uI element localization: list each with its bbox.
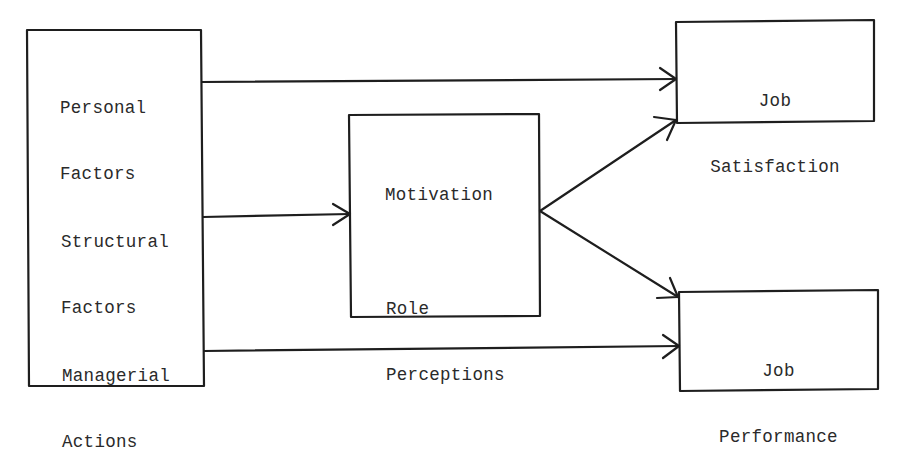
label-role-perceptions: Role Perceptions: [386, 254, 505, 408]
personal-factors-line2: Factors: [60, 163, 146, 185]
managerial-actions-line1: Managerial: [62, 365, 170, 387]
job-performance-line2: Performance: [679, 426, 878, 448]
arrow-mediator-to-satisfaction: [540, 117, 676, 211]
label-job-performance: Job Performance: [679, 316, 878, 451]
personal-factors-line1: Personal: [60, 97, 146, 119]
structural-factors-line2: Factors: [61, 297, 169, 319]
label-job-satisfaction: Job Satisfaction: [676, 46, 874, 200]
label-personal-factors: Personal Factors: [60, 53, 146, 207]
label-structural-factors: Structural Factors: [61, 187, 169, 341]
motivation-text: Motivation: [385, 184, 493, 206]
label-motivation: Motivation: [385, 140, 493, 228]
structural-factors-line1: Structural: [61, 231, 169, 253]
perceptions-text: Perceptions: [386, 364, 505, 386]
label-managerial-actions: Managerial Actions: [62, 321, 170, 451]
arrow-mediator-to-performance: [540, 211, 678, 298]
role-text: Role: [386, 298, 505, 320]
job-satisfaction-line2: Satisfaction: [676, 156, 874, 178]
job-satisfaction-line1: Job: [676, 90, 874, 112]
arrow-structural-to-mediator: [203, 204, 350, 225]
arrow-personal-to-satisfaction: [202, 68, 676, 90]
job-performance-line1: Job: [679, 360, 878, 382]
managerial-actions-line2: Actions: [62, 431, 170, 451]
